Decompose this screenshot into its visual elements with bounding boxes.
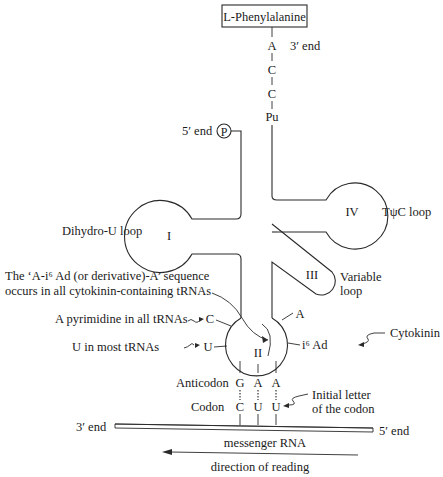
- loop-base-c: C: [206, 312, 214, 326]
- cytokinin-label: Cytokinin: [390, 326, 441, 340]
- mrna-label: messenger RNA: [224, 436, 306, 450]
- sequence-arrow: [212, 293, 268, 340]
- base-c2: C: [268, 87, 276, 101]
- loop-base-u: U: [203, 340, 212, 354]
- anticodon-base-3: A: [271, 376, 280, 390]
- codon-base-3: U: [271, 400, 280, 414]
- loop-base-i6ad: i⁶ Ad: [302, 338, 328, 352]
- sequence-annotation-line2: occurs in all cytokinin-containing tRNAs: [5, 284, 211, 298]
- loop-ii-numeral: II: [254, 346, 262, 360]
- anticodon-label: Anticodon: [176, 376, 230, 390]
- codon-base-1: C: [236, 400, 244, 414]
- sequence-arrowhead-icon: [262, 336, 268, 343]
- dihydro-u-loop-label: Dihydro-U loop: [62, 224, 142, 238]
- amino-acid-label: L-Phenylalanine: [223, 10, 306, 24]
- pyrimidine-squiggle: [188, 320, 200, 323]
- pyrimidine-annotation: A pyrimidine in all tRNAs: [55, 312, 188, 326]
- loop-iii-numeral: III: [306, 268, 319, 282]
- cytokinin-squiggle: [362, 333, 385, 344]
- tpsic-loop-label: TψC loop: [382, 205, 431, 219]
- initial-arrowhead-icon: [283, 403, 289, 408]
- amino-acid-box: L-Phenylalanine: [222, 5, 307, 27]
- initial-letter-line1: Initial letter: [312, 388, 371, 402]
- cytokinin-arrowhead-icon: [358, 342, 364, 347]
- loop-base-a: A: [295, 307, 304, 321]
- loop-iv-numeral: IV: [345, 205, 358, 219]
- variable-loop-label-2: loop: [340, 284, 362, 298]
- acceptor-stem: A C C Pu 3′ end: [265, 27, 321, 124]
- direction-label: direction of reading: [211, 460, 310, 474]
- trna-diagram: L-Phenylalanine A C C Pu 3′ end 5′ end P…: [0, 0, 443, 477]
- direction-arrow-icon: [162, 449, 172, 455]
- reading-direction: direction of reading: [162, 449, 358, 474]
- u-squiggle: [184, 344, 194, 349]
- mrna-strand: 3′ end 5′ end messenger RNA: [76, 420, 410, 450]
- anticodon-base-2: A: [253, 376, 262, 390]
- five-prime-label: 5′ end: [182, 124, 213, 138]
- mrna-five-prime-label: 5′ end: [379, 424, 410, 438]
- base-pu: Pu: [265, 110, 279, 124]
- base-a: A: [267, 39, 276, 53]
- codon-label: Codon: [191, 400, 225, 414]
- u-arrowhead-icon: [195, 343, 200, 348]
- variable-loop-arm: [272, 224, 335, 318]
- codon-base-2: U: [253, 400, 262, 414]
- u-most-annotation: U in most tRNAs: [72, 340, 159, 354]
- loop-i-numeral: I: [167, 229, 171, 243]
- phosphate-label: P: [221, 125, 228, 139]
- pyrimidine-arrowhead-icon: [199, 317, 204, 322]
- variable-loop-label-1: Variable: [340, 270, 382, 284]
- base-c1: C: [268, 63, 276, 77]
- five-prime-end: 5′ end P: [182, 124, 231, 139]
- initial-letter-line2: of the codon: [312, 402, 375, 416]
- trna-backbone-right: [272, 125, 388, 249]
- anticodon-loop: II: [225, 318, 287, 376]
- anticodon-base-1: G: [235, 376, 244, 390]
- sequence-annotation-line1: The ‘A-i⁶ Ad (or derivative)-A’ sequence: [5, 269, 210, 283]
- mrna-three-prime-label: 3′ end: [76, 420, 107, 434]
- initial-squiggle: [289, 394, 308, 405]
- three-prime-end-label: 3′ end: [290, 39, 321, 53]
